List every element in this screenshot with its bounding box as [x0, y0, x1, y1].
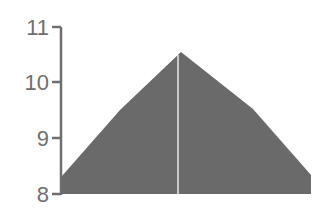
y-tick-label-9: 9 — [37, 126, 49, 151]
area-chart: 11 10 9 8 — [0, 0, 335, 216]
y-tick-label-11: 11 — [26, 15, 49, 40]
y-tick-label-10: 10 — [25, 70, 49, 95]
y-tick-label-8: 8 — [37, 182, 49, 207]
area-fill — [62, 52, 311, 194]
y-axis: 11 10 9 8 — [25, 15, 61, 207]
